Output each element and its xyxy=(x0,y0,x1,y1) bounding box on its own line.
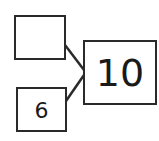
part-box-top[interactable] xyxy=(14,15,66,60)
whole-box: 10 xyxy=(83,40,157,105)
part-box-bottom: 6 xyxy=(16,87,67,132)
